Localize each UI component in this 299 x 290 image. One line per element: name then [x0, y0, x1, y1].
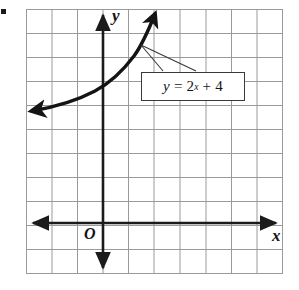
x-axis-label: x: [272, 226, 281, 246]
equation-constant: 4: [215, 78, 223, 95]
equation-equals: =: [174, 78, 183, 95]
graph-canvas: [0, 0, 299, 290]
origin-label: O: [84, 225, 96, 243]
graph-figure: y = 2x + 4 y x O: [0, 0, 299, 290]
equation-callout: y = 2x + 4: [141, 72, 245, 101]
equation-plus: +: [203, 78, 212, 95]
equation-variable-y: y: [163, 78, 170, 95]
y-axis-label: y: [112, 6, 120, 26]
